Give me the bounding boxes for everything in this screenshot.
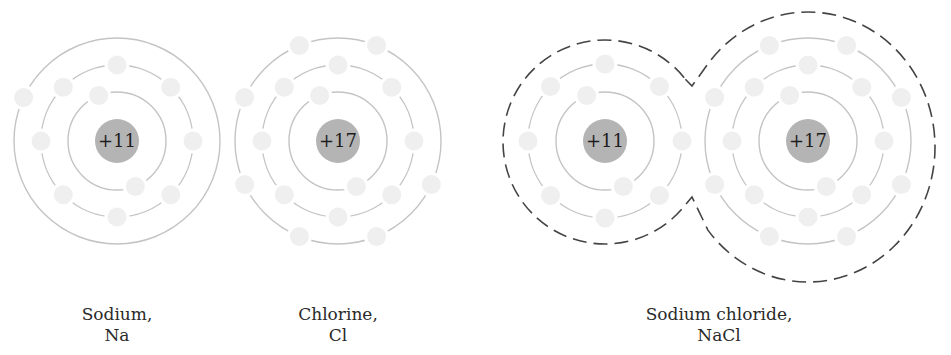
caption-chlorine: Chlorine, Cl bbox=[228, 304, 448, 346]
atoms-layer: +11+17+11+17 bbox=[13, 12, 935, 282]
electron-icon bbox=[327, 54, 349, 76]
electron-icon bbox=[758, 225, 780, 247]
electron-icon bbox=[873, 130, 895, 152]
electron-icon bbox=[721, 130, 743, 152]
electron-icon bbox=[648, 184, 670, 206]
electron-icon bbox=[612, 175, 634, 197]
chlorine-charge-label: +17 bbox=[319, 130, 357, 151]
electron-icon bbox=[594, 207, 616, 229]
caption-sodium-name: Sodium, bbox=[7, 304, 227, 325]
sodium: +11 bbox=[13, 38, 220, 244]
chlorine: +17 bbox=[234, 35, 443, 248]
electron-icon bbox=[381, 184, 403, 206]
electron-icon bbox=[648, 76, 670, 98]
electron-icon bbox=[273, 184, 295, 206]
electron-icon bbox=[309, 85, 331, 107]
electron-icon bbox=[182, 130, 204, 152]
electron-icon bbox=[160, 184, 182, 206]
electron-icon bbox=[797, 206, 819, 228]
electron-icon bbox=[836, 35, 858, 57]
chloride-ion-charge-label: +17 bbox=[789, 130, 827, 151]
electron-icon bbox=[327, 206, 349, 228]
ionic-boundary-dashed bbox=[503, 12, 935, 282]
electron-icon bbox=[366, 35, 388, 57]
electron-icon bbox=[851, 184, 873, 206]
electron-icon bbox=[366, 225, 388, 247]
electron-icon bbox=[88, 85, 110, 107]
caption-chlorine-name: Chlorine, bbox=[228, 304, 448, 325]
electron-icon bbox=[234, 86, 256, 108]
chloride-ion: +17 bbox=[704, 35, 913, 248]
caption-sodium: Sodium, Na bbox=[7, 304, 227, 346]
electron-icon bbox=[890, 174, 912, 196]
caption-sodium-chloride-name: Sodium chloride, bbox=[609, 304, 829, 325]
electron-icon bbox=[288, 35, 310, 57]
sodium-ion-charge-label: +11 bbox=[586, 130, 624, 151]
electron-icon bbox=[403, 130, 425, 152]
electron-icon bbox=[540, 184, 562, 206]
electron-icon bbox=[288, 225, 310, 247]
electron-icon bbox=[743, 76, 765, 98]
electron-icon bbox=[779, 85, 801, 107]
electron-icon bbox=[160, 76, 182, 98]
electron-icon bbox=[540, 76, 562, 98]
electron-icon bbox=[815, 175, 837, 197]
electron-icon bbox=[797, 54, 819, 76]
electron-icon bbox=[345, 175, 367, 197]
sodium-charge-label: +11 bbox=[98, 130, 136, 151]
electron-icon bbox=[106, 206, 128, 228]
electron-icon bbox=[234, 174, 256, 196]
electron-icon bbox=[890, 86, 912, 108]
caption-sodium-symbol: Na bbox=[7, 325, 227, 346]
electron-icon bbox=[52, 184, 74, 206]
electron-icon bbox=[704, 174, 726, 196]
electron-icon bbox=[576, 85, 598, 107]
electron-icon bbox=[30, 130, 52, 152]
caption-sodium-chloride-formula: NaCl bbox=[609, 325, 829, 346]
electron-icon bbox=[851, 76, 873, 98]
electron-icon bbox=[13, 86, 35, 108]
electron-icon bbox=[517, 130, 539, 152]
sodium-ion: +11 bbox=[517, 53, 693, 229]
ionic-bond-diagram: +11+17+11+17 bbox=[0, 0, 951, 355]
caption-chlorine-symbol: Cl bbox=[228, 325, 448, 346]
electron-icon bbox=[758, 35, 780, 57]
electron-icon bbox=[704, 86, 726, 108]
electron-icon bbox=[106, 54, 128, 76]
electron-icon bbox=[836, 225, 858, 247]
electron-icon bbox=[124, 175, 146, 197]
electron-icon bbox=[381, 76, 403, 98]
electron-icon bbox=[52, 76, 74, 98]
electron-icon bbox=[671, 130, 693, 152]
caption-sodium-chloride: Sodium chloride, NaCl bbox=[609, 304, 829, 346]
electron-icon bbox=[420, 174, 442, 196]
electron-icon bbox=[251, 130, 273, 152]
electron-icon bbox=[743, 184, 765, 206]
electron-icon bbox=[273, 76, 295, 98]
electron-icon bbox=[594, 53, 616, 75]
